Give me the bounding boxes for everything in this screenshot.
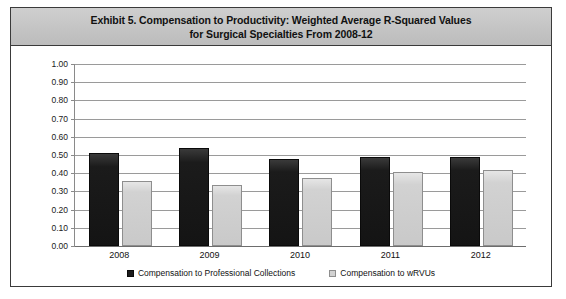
bars-layer [75, 64, 526, 246]
bar-2009-series-1 [179, 148, 209, 246]
legend-entry-2: Compensation to wRVUs [329, 269, 435, 278]
bar-group-2012 [437, 64, 527, 246]
y-axis-label: 0.30 [22, 187, 68, 196]
bar-2008-series-1 [89, 153, 119, 246]
y-axis-label: 0.60 [22, 133, 68, 142]
bar-2008-series-2 [122, 181, 152, 246]
legend-entry-1: Compensation to Professional Collections [127, 269, 295, 278]
bar-2010-series-1 [269, 159, 299, 246]
legend-swatch-icon [329, 270, 336, 277]
y-axis-label: 0.00 [22, 242, 68, 251]
y-axis-label: 0.50 [22, 151, 68, 160]
y-axis-label: 0.70 [22, 115, 68, 124]
exhibit-title-line-2: for Surgical Specialties From 2008-12 [189, 27, 372, 41]
y-axis-label: 0.40 [22, 169, 68, 178]
y-axis-label: 0.20 [22, 206, 68, 215]
bar-2010-series-2 [302, 178, 332, 246]
exhibit-title-band: Exhibit 5. Compensation to Productivity:… [11, 8, 551, 46]
bar-2011-series-1 [360, 157, 390, 246]
exhibit-title-line-1: Exhibit 5. Compensation to Productivity:… [91, 13, 472, 27]
y-axis-label: 0.10 [22, 224, 68, 233]
bar-group-2008 [75, 64, 165, 246]
legend-swatch-icon [127, 270, 134, 277]
y-axis-tick [71, 246, 75, 247]
y-axis-label: 1.00 [22, 60, 68, 69]
bar-2012-series-2 [483, 170, 513, 246]
x-axis-label-2010: 2010 [260, 250, 340, 261]
legend-label: Compensation to wRVUs [340, 269, 435, 278]
bar-2011-series-2 [393, 172, 423, 246]
exhibit-frame: Exhibit 5. Compensation to Productivity:… [10, 7, 552, 287]
legend-label: Compensation to Professional Collections [138, 269, 295, 278]
x-axis-label-2009: 2009 [170, 250, 250, 261]
bar-2009-series-2 [212, 185, 242, 246]
plot-area [74, 64, 526, 246]
x-axis-labels: 20082009201020112012 [74, 250, 526, 264]
gridline [75, 246, 526, 247]
bar-group-2011 [346, 64, 436, 246]
y-axis-label: 0.90 [22, 78, 68, 87]
x-axis-label-2011: 2011 [350, 250, 430, 261]
bar-2012-series-1 [450, 157, 480, 246]
bar-group-2010 [256, 64, 346, 246]
x-axis-label-2008: 2008 [79, 250, 159, 261]
chart-legend: Compensation to Professional Collections… [11, 269, 551, 278]
bar-group-2009 [165, 64, 255, 246]
chart-body: 1.000.900.800.700.600.500.400.300.200.10… [11, 47, 551, 286]
x-axis-label-2012: 2012 [441, 250, 521, 261]
y-axis-labels: 1.000.900.800.700.600.500.400.300.200.10… [20, 64, 68, 246]
y-axis-label: 0.80 [22, 96, 68, 105]
